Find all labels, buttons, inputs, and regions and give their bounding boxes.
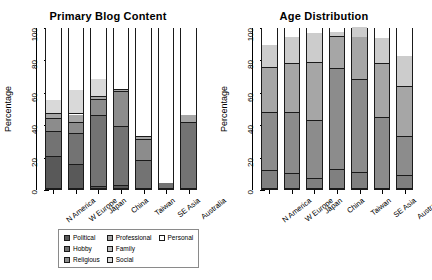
bar-segment bbox=[352, 80, 367, 172]
x-tick-label: Taiwan bbox=[369, 196, 393, 217]
legend-label: Personal bbox=[168, 234, 194, 241]
bar-segment bbox=[46, 157, 61, 189]
x-tick bbox=[337, 190, 338, 194]
x-tick bbox=[144, 190, 145, 194]
legend-swatch bbox=[64, 257, 70, 263]
y-tick-label: 60 bbox=[247, 93, 255, 102]
x-tick-label: SE Asia bbox=[392, 196, 418, 219]
bar-segment bbox=[262, 171, 277, 189]
bar-segment bbox=[307, 179, 322, 189]
legend-left: PoliticalHobbyReligiousProfessionalFamil… bbox=[58, 229, 199, 268]
bar-segment bbox=[114, 27, 129, 89]
stacked-bar bbox=[261, 28, 278, 190]
bar-segment bbox=[397, 56, 412, 87]
legend-column: Personal bbox=[159, 233, 194, 264]
bar-segment bbox=[397, 87, 412, 137]
bar-segment bbox=[114, 127, 129, 185]
legend-label: Professional bbox=[116, 234, 152, 241]
legend-item[interactable]: Political bbox=[64, 233, 100, 242]
y-axis-label-right: Percentage bbox=[218, 28, 230, 190]
x-tick bbox=[292, 190, 293, 194]
bar-segment bbox=[375, 64, 390, 117]
bar-segment bbox=[46, 114, 61, 119]
legend-swatch bbox=[107, 246, 113, 252]
bar-segment bbox=[285, 64, 300, 113]
bar-segment bbox=[397, 27, 412, 56]
y-tick-label: 0 bbox=[247, 190, 255, 194]
bar-segment bbox=[69, 123, 84, 134]
bar-segment bbox=[91, 187, 106, 189]
x-tick bbox=[189, 190, 190, 194]
bar-segment bbox=[285, 37, 300, 65]
y-axis-label-left: Percentage bbox=[2, 28, 14, 190]
bar-segment bbox=[114, 92, 129, 128]
bar-segment bbox=[159, 27, 174, 183]
bar-segment bbox=[91, 97, 106, 100]
legend-label: Family bbox=[116, 245, 135, 252]
x-tick bbox=[360, 190, 361, 194]
bar-segment bbox=[307, 121, 322, 179]
x-tick-label: China bbox=[345, 196, 366, 215]
legend-item[interactable]: Social bbox=[107, 255, 152, 264]
bar-segment bbox=[114, 89, 129, 91]
legend-item[interactable]: Personal bbox=[159, 233, 194, 242]
bar-segment bbox=[46, 100, 61, 115]
bar-segment bbox=[69, 165, 84, 189]
bar-segment bbox=[330, 170, 345, 189]
legend-item[interactable]: Religious bbox=[64, 255, 100, 264]
bar-segment bbox=[307, 33, 322, 62]
y-tick-label: 100 bbox=[31, 28, 39, 41]
bar-segment bbox=[136, 27, 151, 136]
legend-item[interactable]: Hobby bbox=[64, 244, 100, 253]
legend-swatch bbox=[64, 235, 70, 241]
bar-segment bbox=[397, 137, 412, 176]
chart-title-left: Primary Blog Content bbox=[0, 10, 216, 22]
x-axis-right bbox=[258, 190, 416, 195]
y-tick-label: 80 bbox=[31, 60, 39, 69]
bar-segment bbox=[69, 90, 84, 114]
legend-label: Social bbox=[116, 256, 134, 263]
stacked-bar bbox=[329, 28, 346, 190]
legend-label: Political bbox=[73, 234, 95, 241]
x-tick bbox=[53, 190, 54, 194]
legend-swatch bbox=[107, 257, 113, 263]
x-tick bbox=[269, 190, 270, 194]
plot-area-right bbox=[258, 28, 416, 190]
bar-segment bbox=[262, 27, 277, 45]
bar-segment bbox=[285, 27, 300, 37]
legend-item[interactable]: Family bbox=[107, 244, 152, 253]
bar-segment bbox=[285, 174, 300, 189]
y-tick-label: 40 bbox=[247, 125, 255, 134]
bar-segment bbox=[91, 79, 106, 97]
legend-item[interactable]: Professional bbox=[107, 233, 152, 242]
bar-segment bbox=[91, 27, 106, 79]
bar-segment bbox=[159, 183, 174, 189]
stacked-bar bbox=[45, 28, 62, 190]
y-tick-label: 60 bbox=[31, 93, 39, 102]
bar-segment bbox=[69, 115, 84, 123]
y-tick-label: 80 bbox=[247, 60, 255, 69]
bar-segment bbox=[69, 27, 84, 90]
bar-segment bbox=[285, 113, 300, 175]
stacked-bar bbox=[351, 28, 368, 190]
x-tick-label: SE Asia bbox=[176, 196, 202, 219]
bar-segment bbox=[352, 37, 367, 81]
x-tick bbox=[382, 190, 383, 194]
bar-segment bbox=[181, 27, 196, 114]
x-axis-left bbox=[42, 190, 200, 195]
bar-segment bbox=[136, 137, 151, 140]
bar-segment bbox=[91, 100, 106, 116]
bar-segment bbox=[307, 63, 322, 121]
x-tick-label: Australia bbox=[415, 196, 432, 221]
bar-segment bbox=[114, 186, 129, 189]
legend-label: Religious bbox=[73, 256, 100, 263]
stacked-bar bbox=[306, 28, 323, 190]
legend-swatch bbox=[64, 246, 70, 252]
bar-segment bbox=[69, 134, 84, 165]
panel-age-distribution: Age Distribution Percentage 020406080100… bbox=[216, 0, 432, 280]
bar-segment bbox=[375, 27, 390, 38]
chart-title-right: Age Distribution bbox=[216, 10, 432, 22]
y-tick-label: 100 bbox=[247, 28, 255, 41]
y-axis-label-left-text: Percentage bbox=[3, 86, 13, 132]
y-tick-label: 40 bbox=[31, 125, 39, 134]
